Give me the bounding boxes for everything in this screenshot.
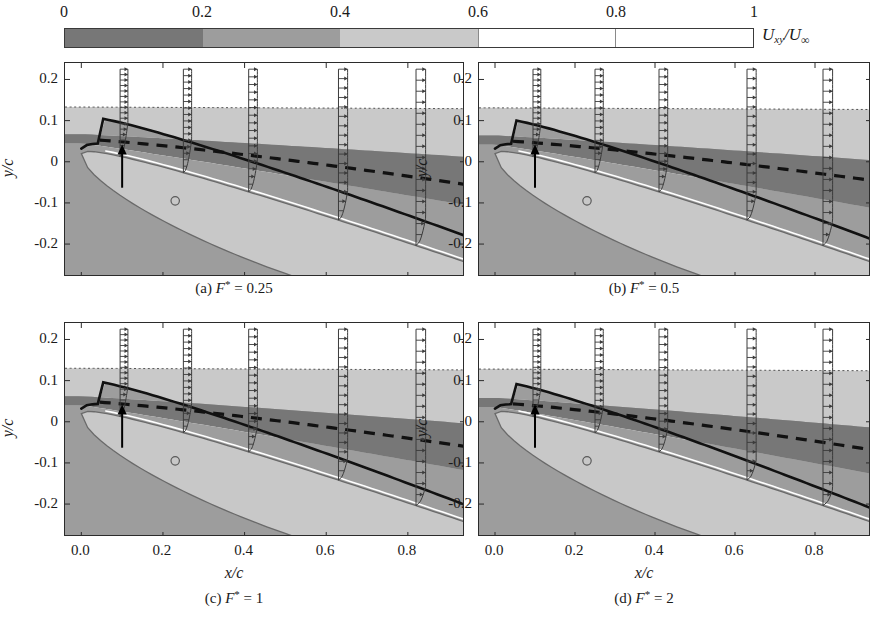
profile-arrowhead <box>829 471 832 475</box>
profile-arrowhead <box>254 106 257 110</box>
profile-arrowhead <box>125 67 128 71</box>
profile-arrowhead <box>188 392 191 396</box>
velocity-profile-4 <box>338 327 347 480</box>
profile-arrowhead <box>829 371 832 375</box>
contour-band-0.2-0.4 <box>65 119 464 236</box>
plot-area-c <box>64 322 464 536</box>
profile-arrowhead <box>664 113 667 117</box>
profile-arrowhead <box>753 190 756 194</box>
profile-arrowhead <box>188 360 191 364</box>
profile-arrowhead <box>344 412 347 416</box>
velocity-profile-2 <box>595 67 603 173</box>
profile-arrowhead <box>753 105 756 109</box>
profile-arrowhead <box>829 89 832 93</box>
caption-variable: F <box>630 280 639 296</box>
profile-arrowhead <box>599 411 602 415</box>
profile-arrowhead <box>343 459 346 463</box>
profile-arrowhead <box>125 116 128 120</box>
profile-arrowhead <box>829 100 832 104</box>
profile-arrowhead <box>537 127 540 131</box>
contour-band-0-0.2 <box>479 398 870 474</box>
profile-arrowhead <box>254 75 257 79</box>
caption-value: = 1 <box>240 590 263 606</box>
contour-band-0-0.2 <box>65 396 464 470</box>
profile-arrowhead <box>125 84 128 88</box>
profile-envelope <box>533 329 541 416</box>
profile-arrowhead <box>422 100 425 104</box>
profile-arrowhead <box>600 80 603 84</box>
surface-highlight <box>519 151 870 260</box>
velocity-profile-1 <box>533 67 541 156</box>
profile-arrowhead <box>344 337 347 341</box>
profile-arrowhead <box>600 132 603 136</box>
profile-arrowhead <box>537 111 540 115</box>
profile-arrowhead <box>344 152 347 156</box>
profile-arrowhead <box>422 471 425 475</box>
profile-arrowhead <box>663 167 666 171</box>
profile-arrowhead <box>829 188 832 192</box>
profile-arrowhead <box>753 450 756 454</box>
profile-arrowhead <box>422 122 425 126</box>
x-tick-label: 0.4 <box>234 542 253 559</box>
profile-arrowhead <box>254 343 257 347</box>
profile-arrowhead <box>421 222 424 226</box>
caption-value: = 0.5 <box>645 280 680 296</box>
profile-arrowhead <box>537 67 540 71</box>
profile-arrowhead <box>422 448 425 452</box>
profile-arrowhead <box>125 371 128 375</box>
x-tick-label: 0.6 <box>725 542 744 559</box>
boundary-layer-edge-line <box>81 119 464 236</box>
profile-arrowhead <box>829 382 832 386</box>
profile-arrowhead <box>750 469 753 473</box>
profile-envelope <box>823 69 833 245</box>
profile-arrowhead <box>344 374 347 378</box>
y-tick-label: 0.1 <box>434 111 472 128</box>
x-axis-title: x/c <box>635 564 654 582</box>
colorbar-label-u: U <box>762 25 774 44</box>
colorbar-tick-labels: 00.20.40.60.81 <box>0 2 878 24</box>
profile-arrowhead <box>829 166 832 170</box>
profile-arrowhead <box>753 365 756 369</box>
profile-arrowhead <box>600 353 603 357</box>
profile-arrowhead <box>829 360 832 364</box>
reference-circle-marker <box>583 457 591 465</box>
profile-arrowhead <box>422 166 425 170</box>
profile-arrowhead <box>536 133 539 137</box>
profile-arrowhead <box>600 392 603 396</box>
profile-arrowhead <box>125 78 128 82</box>
profile-envelope <box>533 69 541 156</box>
profile-arrowhead <box>344 422 347 426</box>
x-tick-label: 0.0 <box>485 542 504 559</box>
profile-arrowhead <box>753 124 756 128</box>
caption-variable: F <box>216 280 225 296</box>
y-tick-label: -0.1 <box>434 193 472 210</box>
caption-star: * <box>645 588 651 600</box>
colorbar-label-divisor: /U <box>784 25 801 44</box>
profile-arrowhead <box>664 129 667 133</box>
profile-arrowhead <box>254 159 257 163</box>
profile-arrowhead <box>537 78 540 82</box>
y-tick-label: 0.1 <box>20 371 58 388</box>
profile-arrowhead <box>753 114 756 118</box>
velocity-profile-4 <box>747 327 756 480</box>
colorbar-label-subscript: xy <box>774 33 784 45</box>
profile-arrowhead <box>422 133 425 137</box>
shear-layer-dashed-line <box>100 140 464 184</box>
caption-index: (c) <box>205 590 225 606</box>
profile-arrowhead <box>422 78 425 82</box>
y-tick-label: 0 <box>20 412 58 429</box>
velocity-profile-5 <box>823 67 833 245</box>
profile-arrowhead <box>753 440 756 444</box>
profile-arrowhead <box>826 233 829 237</box>
profile-envelope <box>595 329 603 432</box>
plot-area-a <box>64 62 464 276</box>
actuator-arrow <box>530 144 539 187</box>
profile-arrowhead <box>125 89 128 93</box>
reference-circle-marker <box>171 197 179 205</box>
x-axis-title: x/c <box>225 564 244 582</box>
x-tick-label: 0.8 <box>397 542 416 559</box>
colorbar-tick-mark <box>615 29 616 47</box>
profile-arrowhead <box>599 145 602 149</box>
outer-edge-dotted-line <box>65 107 464 109</box>
profile-arrowhead <box>664 412 667 416</box>
